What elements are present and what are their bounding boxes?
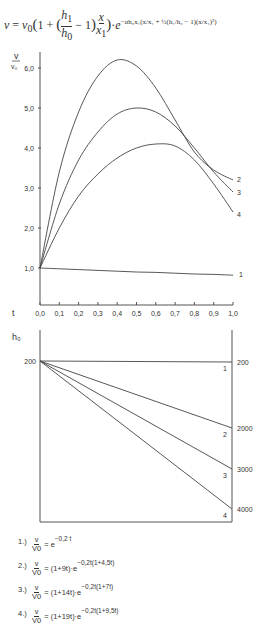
equation-rhs: = e−0,2 t — [44, 536, 71, 549]
h0-line-3 — [40, 361, 232, 469]
equation-number: 1.) — [18, 536, 32, 546]
equation-legend: 1.)vV0= e−0,2 t2.)vV0= (1+9t)·e−0,2t(1+4… — [18, 536, 258, 632]
h0-line-label-4: 4 — [223, 512, 227, 519]
legend-equation-4: 4.)vV0= (1+19t)·e−0,2t(1+9,5t) — [18, 608, 258, 632]
right-tick-label: 4000 — [237, 506, 253, 513]
legend-equation-3: 3.)vV0= (1+14t)·e−0,2t(1+7t) — [18, 584, 258, 608]
h0-line-4 — [40, 361, 232, 509]
equation-number: 2.) — [18, 560, 32, 570]
equation-number: 3.) — [18, 584, 32, 594]
velocity-ratio-fraction: vV0 — [32, 608, 41, 625]
legend-equation-2: 2.)vV0= (1+9t)·e−0,2t(1+4,5t) — [18, 560, 258, 584]
h0-line-2 — [40, 361, 232, 428]
h0-line-label-2: 2 — [223, 431, 227, 438]
velocity-ratio-fraction: vV0 — [32, 560, 41, 577]
left-tick-label: 200 — [24, 358, 36, 365]
h0-line-1 — [40, 361, 232, 362]
equation-rhs: = (1+9t)·e−0,2t(1+4,5t) — [44, 560, 114, 573]
h0-axis-label: h₀ — [12, 332, 21, 342]
h0-line-label-1: 1 — [223, 365, 227, 372]
equation-rhs: = (1+14t)·e−0,2t(1+7t) — [44, 584, 113, 597]
right-tick-label: 200 — [237, 359, 249, 366]
h0-line-label-3: 3 — [223, 472, 227, 479]
legend-equation-1: 1.)vV0= e−0,2 t — [18, 536, 258, 560]
velocity-ratio-fraction: vV0 — [32, 536, 41, 553]
right-tick-label: 2000 — [237, 425, 253, 432]
equation-number: 4.) — [18, 608, 32, 618]
right-tick-label: 3000 — [237, 466, 253, 473]
equation-rhs: = (1+19t)·e−0,2t(1+9,5t) — [44, 608, 118, 621]
velocity-ratio-fraction: vV0 — [32, 584, 41, 601]
